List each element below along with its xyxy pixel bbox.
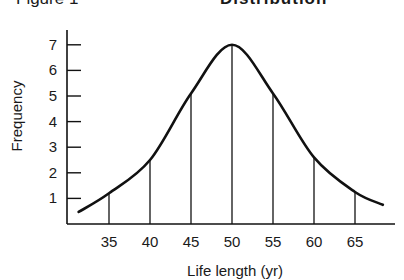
x-axis-label: Life length (yr)	[187, 262, 283, 279]
x-tick-label: 40	[142, 233, 159, 250]
y-tick-label: 1	[49, 189, 57, 206]
y-axis-label: Frequency	[8, 80, 25, 151]
y-tick-label: 6	[49, 61, 57, 78]
y-tick-label: 7	[49, 36, 57, 53]
x-axis-ticks: 35404550556065	[101, 233, 364, 250]
x-tick-label: 65	[347, 233, 364, 250]
y-axis-ticks: 1234567	[49, 36, 81, 207]
x-tick-label: 60	[306, 233, 323, 250]
x-tick-label: 35	[101, 233, 118, 250]
y-tick-label: 5	[49, 87, 57, 104]
x-tick-label: 50	[224, 233, 241, 250]
x-tick-label: 45	[183, 233, 200, 250]
x-tick-label: 55	[265, 233, 282, 250]
y-tick-label: 4	[49, 113, 57, 130]
y-tick-label: 3	[49, 138, 57, 155]
distribution-chart: 1234567 35404550556065 Frequency Life le…	[0, 0, 404, 280]
y-tick-label: 2	[49, 164, 57, 181]
vertical-lines	[109, 45, 355, 224]
axes	[67, 30, 395, 224]
distribution-curve	[79, 45, 383, 212]
